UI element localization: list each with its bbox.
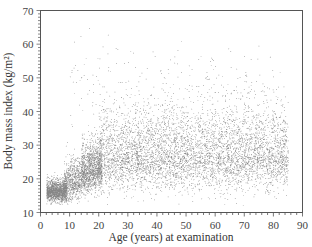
y-tick-label: 60 bbox=[23, 38, 35, 50]
x-tick-label: 20 bbox=[93, 219, 105, 231]
x-tick-label: 0 bbox=[38, 219, 44, 231]
y-tick-label: 40 bbox=[23, 106, 35, 118]
x-tick-label: 80 bbox=[268, 219, 280, 231]
x-tick-label: 60 bbox=[210, 219, 222, 231]
y-tick-label: 20 bbox=[23, 173, 35, 185]
y-tick-label: 10 bbox=[23, 207, 35, 219]
y-axis: 10203040506070 bbox=[23, 5, 41, 219]
x-axis-title: Age (years) at examination bbox=[109, 231, 234, 244]
x-tick-label: 10 bbox=[64, 219, 76, 231]
scatter-chart: 0102030405060708090 10203040506070 Age (… bbox=[0, 0, 312, 247]
y-tick-label: 70 bbox=[23, 5, 35, 17]
data-points bbox=[46, 28, 288, 205]
x-tick-label: 30 bbox=[122, 219, 134, 231]
y-tick-label: 50 bbox=[23, 72, 35, 84]
y-tick-label: 30 bbox=[23, 139, 35, 151]
x-tick-label: 50 bbox=[181, 219, 193, 231]
points-layer bbox=[46, 28, 288, 205]
x-tick-label: 70 bbox=[239, 219, 251, 231]
y-axis-title: Body mass index (kg/m²) bbox=[2, 52, 15, 169]
x-tick-label: 90 bbox=[297, 219, 309, 231]
x-tick-label: 40 bbox=[151, 219, 163, 231]
x-axis: 0102030405060708090 bbox=[38, 213, 309, 231]
